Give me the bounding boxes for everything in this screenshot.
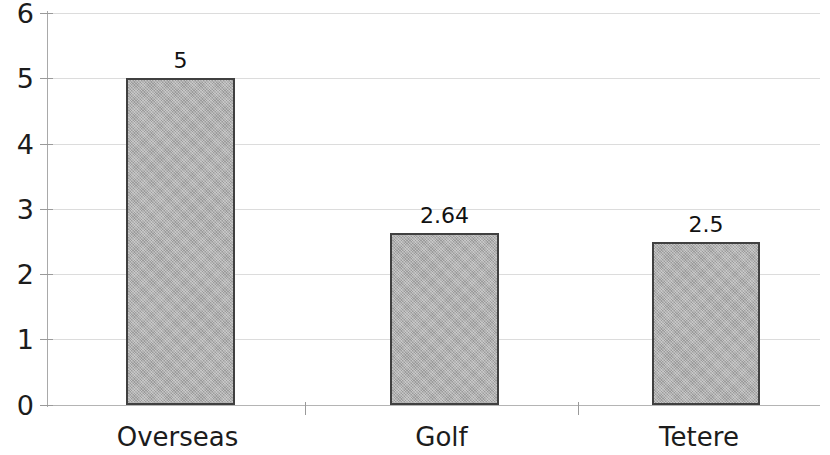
y-axis-label-6: 6 <box>0 0 34 27</box>
y-tick-1 <box>40 339 53 340</box>
bar-golf[interactable] <box>390 233 499 405</box>
y-tick-6 <box>40 13 53 14</box>
bar-value-label-overseas: 5 <box>126 50 235 72</box>
bar-value-label-golf: 2.64 <box>390 205 499 227</box>
bar-chart: 5 2.64 2.5 6 5 4 3 2 1 0 Overseas Golf T… <box>0 0 830 455</box>
bar-value-label-tetere: 2.5 <box>652 214 760 236</box>
y-axis-label-2: 2 <box>0 261 34 288</box>
y-tick-3 <box>40 209 53 210</box>
y-tick-0 <box>40 405 53 406</box>
category-separator-1 <box>305 402 306 415</box>
x-axis-label-overseas: Overseas <box>50 424 305 450</box>
y-axis-label-0: 0 <box>0 392 34 419</box>
category-separator-2 <box>578 402 579 415</box>
y-tick-4 <box>40 144 53 145</box>
plot-area: 5 2.64 2.5 <box>47 13 820 405</box>
y-axis-label-5: 5 <box>0 65 34 92</box>
y-tick-2 <box>40 274 53 275</box>
y-axis-label-4: 4 <box>0 131 34 158</box>
bar-tetere[interactable] <box>652 242 760 405</box>
gridline-0-baseline <box>47 405 820 406</box>
gridline-6 <box>47 13 820 14</box>
y-axis-label-1: 1 <box>0 326 34 353</box>
y-tick-5 <box>40 78 53 79</box>
x-axis-label-tetere: Tetere <box>578 424 820 450</box>
bar-overseas[interactable] <box>126 78 235 405</box>
y-axis-label-3: 3 <box>0 196 34 223</box>
x-axis-label-golf: Golf <box>305 424 578 450</box>
